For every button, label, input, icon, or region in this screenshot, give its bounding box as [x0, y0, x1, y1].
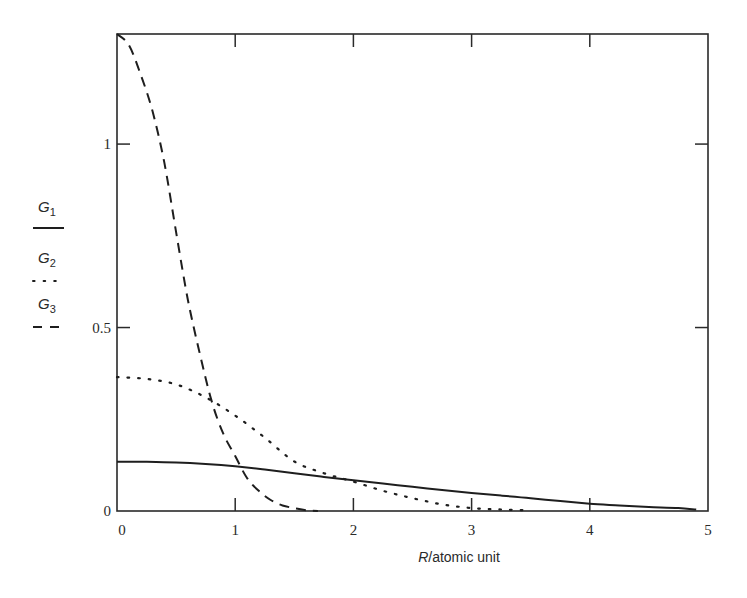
x-tick-label: 2	[350, 522, 358, 538]
x-axis-title: R/atomic unit	[418, 549, 500, 565]
series-g1-line	[117, 462, 696, 510]
y-tick-label: 0	[104, 503, 112, 519]
x-tick-label: 1	[231, 522, 239, 538]
x-tick-label: 5	[704, 522, 712, 538]
legend-label: G2	[38, 249, 56, 269]
legend-item-g2: G2	[33, 249, 64, 281]
x-axis-title-rest: /atomic unit	[428, 549, 500, 565]
plot-border	[117, 34, 708, 511]
legend: G1G2G3	[33, 198, 64, 327]
plot-frame	[117, 34, 708, 511]
legend-item-g3: G3	[33, 295, 64, 327]
x-axis-ticks: 012345	[118, 34, 712, 538]
legend-label: G3	[38, 295, 56, 315]
x-tick-label: 4	[586, 522, 594, 538]
series-g3-line	[117, 34, 318, 511]
x-axis-title-italic: R	[418, 549, 428, 565]
y-axis-ticks: 00.51	[92, 136, 708, 519]
chart: 012345 00.51 G1G2G3 R/atomic unit	[0, 0, 747, 598]
y-tick-label: 1	[104, 136, 112, 152]
x-tick-label: 0	[118, 522, 126, 538]
x-tick-label: 3	[468, 522, 476, 538]
series-layer	[117, 34, 696, 511]
legend-item-g1: G1	[33, 198, 64, 228]
y-tick-label: 0.5	[92, 320, 111, 336]
series-g2-line	[117, 377, 531, 510]
legend-label: G1	[38, 198, 56, 218]
